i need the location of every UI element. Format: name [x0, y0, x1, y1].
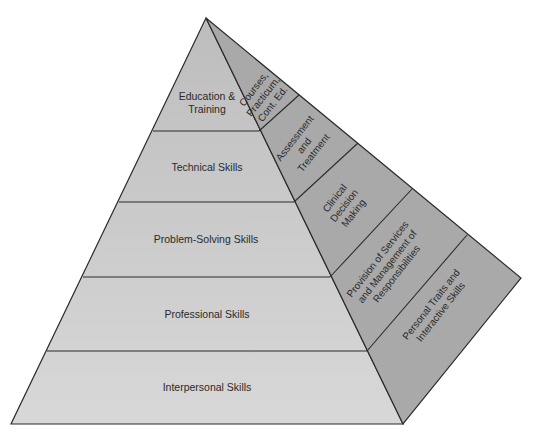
layer-label: Training — [188, 103, 226, 115]
layer-label: Technical Skills — [171, 161, 242, 173]
layer-label: Problem-Solving Skills — [154, 233, 258, 245]
layer-label: Professional Skills — [164, 308, 249, 320]
front-layer-professional-skills: Professional Skills — [164, 308, 249, 320]
pyramid-diagram: Education & Training Technical Skills Pr… — [0, 0, 534, 439]
front-layer-technical-skills: Technical Skills — [171, 161, 242, 173]
layer-label: Education & — [179, 90, 236, 102]
front-layer-interpersonal-skills: Interpersonal Skills — [163, 381, 252, 393]
front-layer-problem-solving-skills: Problem-Solving Skills — [154, 233, 258, 245]
layer-label: Interpersonal Skills — [163, 381, 252, 393]
